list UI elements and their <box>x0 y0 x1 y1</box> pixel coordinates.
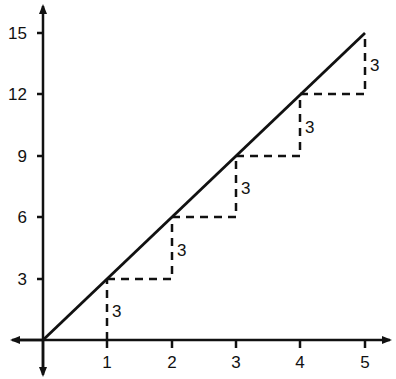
x-tick-label: 1 <box>102 353 111 372</box>
step-labels: 3 3 3 3 3 <box>112 56 379 321</box>
y-tick-label: 15 <box>8 24 27 43</box>
rise-label: 3 <box>370 56 379 75</box>
x-tick-label: 4 <box>295 353 304 372</box>
x-tick-labels: 1 2 3 4 5 <box>102 353 369 372</box>
x-tick-label: 3 <box>231 353 240 372</box>
chart-canvas: 1 2 3 4 5 3 6 9 12 15 3 3 3 3 3 <box>0 0 396 379</box>
y-tick-label: 9 <box>18 147 27 166</box>
y-tick-label: 6 <box>18 208 27 227</box>
y-tick-labels: 3 6 9 12 15 <box>8 24 27 289</box>
rise-label: 3 <box>177 241 186 260</box>
x-tick-label: 2 <box>167 353 176 372</box>
rise-label: 3 <box>241 179 250 198</box>
x-tick-label: 5 <box>360 353 369 372</box>
rise-label: 3 <box>305 118 314 137</box>
line-series <box>43 33 365 340</box>
step-guides <box>107 33 365 340</box>
rise-label: 3 <box>112 302 121 321</box>
y-tick-label: 12 <box>8 85 27 104</box>
y-tick-label: 3 <box>18 270 27 289</box>
